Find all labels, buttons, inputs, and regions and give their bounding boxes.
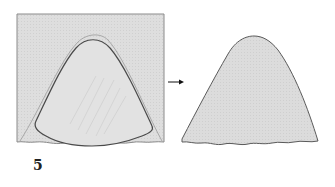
figure-illustration	[0, 0, 335, 187]
result-cone-shape	[182, 36, 318, 145]
arrow-right-icon	[168, 80, 184, 85]
figure: 5	[0, 0, 335, 187]
figure-number-label: 5	[33, 158, 43, 172]
